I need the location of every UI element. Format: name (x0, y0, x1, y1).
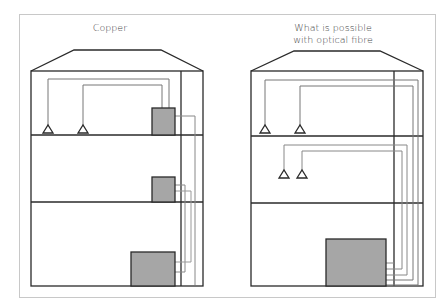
copper-cable-antenna-1 (48, 79, 169, 128)
copper-house (31, 50, 203, 286)
fibre-roof (251, 51, 423, 71)
fibre-antenna-1-icon (260, 125, 270, 133)
copper-roof (31, 50, 203, 71)
copper-antenna-1-icon (43, 125, 53, 133)
copper-cable-antenna-2 (83, 85, 162, 128)
copper-top-floor-box (152, 108, 175, 135)
fibre-antenna-2-icon (295, 125, 305, 133)
copper-house-outline (31, 71, 203, 286)
fibre-antenna-4-icon (297, 170, 307, 178)
copper-middle-floor-box (152, 177, 175, 202)
diagram-svg (0, 0, 447, 308)
optical-fibre-house (251, 51, 423, 286)
copper-basement-box (131, 252, 175, 286)
copper-antenna-2-icon (78, 125, 88, 133)
copper-cable-mid-box (175, 185, 185, 272)
fibre-antenna-3-icon (279, 170, 289, 178)
fibre-basement-box (326, 239, 386, 286)
